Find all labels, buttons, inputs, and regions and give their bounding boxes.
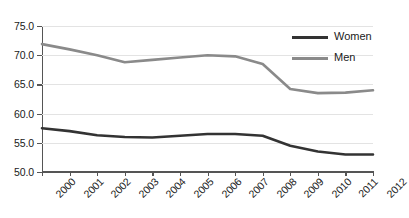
legend-swatch-icon [292,57,328,60]
x-tick-label: 2007 [247,176,271,200]
legend-label: Women [334,30,372,43]
x-tick-label: 2009 [302,176,326,200]
x-tick-label: 2008 [274,176,298,200]
y-tick-label: 65.0 [14,79,34,90]
legend-item[interactable]: Women [292,28,384,49]
x-tick-label: 2011 [357,176,380,199]
x-tick-label: 2000 [54,176,78,200]
chart-legend: WomenMen [292,28,384,70]
y-tick-label: 70.0 [14,50,34,61]
y-tick-mark [37,55,42,56]
legend-swatch-icon [292,36,328,39]
y-tick-mark [37,26,42,27]
legend-label: Men [334,51,355,64]
x-tick-label: 2005 [192,176,216,200]
x-tick-label: 2006 [219,176,243,200]
x-axis-labels: 2000200120022003200420052006200720082009… [0,176,387,218]
x-tick-label: 2003 [136,176,160,200]
y-tick-label: 75.0 [14,21,34,32]
x-tick-label: 2012 [385,176,409,200]
y-tick-label: 55.0 [14,138,34,149]
y-tick-mark [37,114,42,115]
y-tick-mark [37,143,42,144]
legend-item[interactable]: Men [292,49,384,70]
x-tick-label: 2002 [109,176,133,200]
series-line-women [42,128,373,154]
y-tick-label: 60.0 [14,109,34,120]
x-tick-label: 2010 [330,176,354,200]
x-tick-label: 2001 [81,176,105,200]
x-tick-label: 2004 [164,176,188,200]
y-tick-mark [37,172,42,173]
y-tick-mark [37,84,42,85]
